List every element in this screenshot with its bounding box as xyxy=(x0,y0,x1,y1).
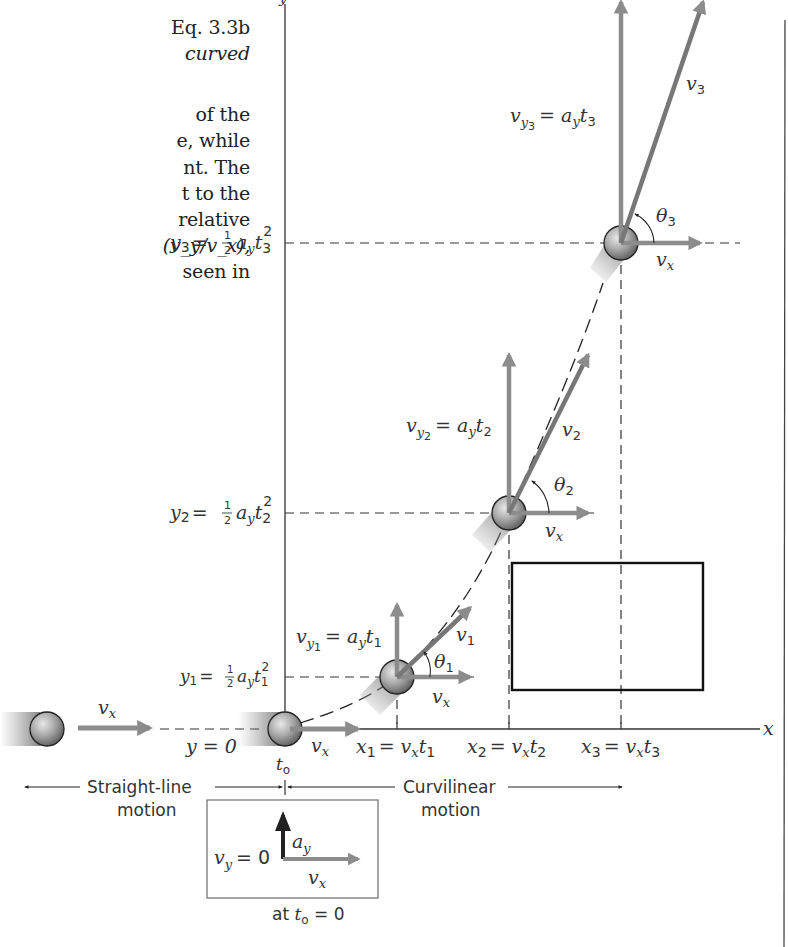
theta2-label: θ2 xyxy=(554,473,574,498)
svg-text:y3=: y3= xyxy=(169,231,208,255)
v3-label: v3 xyxy=(686,72,705,97)
svg-text:ayt32: ayt32 xyxy=(236,223,272,256)
svg-text:1: 1 xyxy=(227,664,233,675)
x-ticks xyxy=(397,722,621,729)
y-axis-label: y xyxy=(278,0,288,6)
x-axis-label: x xyxy=(763,717,774,739)
v2-label: v2 xyxy=(562,418,581,443)
t0-label: to xyxy=(276,754,290,777)
x2-label: x2= vxt2 xyxy=(467,735,546,760)
svg-text:Curvilinear: Curvilinear xyxy=(403,777,496,797)
theta1-label: θ1 xyxy=(434,650,454,675)
theta3-label: θ3 xyxy=(656,204,676,229)
v1-label: v1 xyxy=(456,623,475,648)
vy3-label: vy3= ayt3 xyxy=(510,104,596,133)
theta2-arc xyxy=(532,481,549,513)
ball-2 xyxy=(472,496,526,552)
ball-straight-line xyxy=(0,712,64,746)
svg-text:Straight-line: Straight-line xyxy=(87,777,192,797)
y3-label: y3= 1 2 ayt32 xyxy=(169,223,272,257)
vx1-label: vx xyxy=(432,685,451,710)
initial-conditions-inset: vy= 0 ay vx xyxy=(207,800,378,898)
vx2-label: vx xyxy=(545,519,564,544)
projectile-motion-figure: y x vx y = 0 vx to xyxy=(0,0,788,947)
vx3-label: vx xyxy=(656,248,675,273)
vy2-label: vy2= ayt2 xyxy=(406,414,492,443)
svg-text:2: 2 xyxy=(227,678,233,689)
inset-caption: at to = 0 xyxy=(272,904,345,927)
y1-label: y1= 1 2 ayt12 xyxy=(179,660,269,689)
empty-rectangle xyxy=(512,563,703,690)
x1-label: x1= vxt1 xyxy=(356,735,435,760)
trajectory-curve xyxy=(300,283,603,723)
svg-text:2: 2 xyxy=(224,514,231,527)
ball-3 xyxy=(590,226,638,282)
vx-label-origin: vx xyxy=(311,734,330,759)
x3-label: x3= vxt3 xyxy=(581,735,660,760)
svg-text:2: 2 xyxy=(224,244,231,257)
vy1-label: vy1= ayt1 xyxy=(296,625,382,654)
svg-text:y2=: y2= xyxy=(169,501,208,525)
svg-text:motion: motion xyxy=(117,800,177,820)
theta1-arc xyxy=(424,652,430,677)
svg-text:motion: motion xyxy=(421,800,481,820)
y-level-guides xyxy=(160,243,740,729)
svg-text:1: 1 xyxy=(224,499,231,512)
svg-text:ayt22: ayt22 xyxy=(236,493,272,526)
y2-label: y2= 1 2 ayt22 xyxy=(169,493,272,527)
vx-label-left: vx xyxy=(98,696,117,721)
svg-text:1: 1 xyxy=(224,229,231,242)
page-edge-line xyxy=(784,20,785,947)
svg-text:ayt12: ayt12 xyxy=(237,660,269,689)
y0-label: y = 0 xyxy=(185,735,237,757)
svg-text:y1=: y1= xyxy=(179,666,214,688)
